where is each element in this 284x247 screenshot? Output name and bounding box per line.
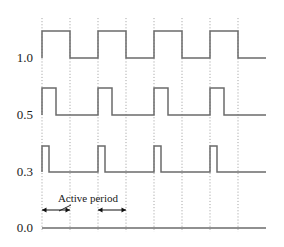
y-axis-label-2: 0.3: [17, 164, 33, 179]
waveform-1-0: [42, 31, 266, 58]
waveform-0-5: [42, 88, 266, 115]
active-period-arrowhead-left-1: [42, 207, 47, 212]
axis-labels-group: 1.00.50.30.0: [17, 50, 33, 235]
active-period-annotation: Active period: [42, 192, 126, 213]
y-axis-label-3: 0.0: [17, 220, 33, 235]
waveform-0-3: [42, 146, 266, 172]
active-period-label: Active period: [58, 192, 119, 204]
active-period-arrows: [42, 207, 126, 212]
active-period-arrowhead-right-2: [122, 207, 127, 212]
timing-diagram-canvas: 1.00.50.30.0 Active period: [0, 0, 284, 247]
active-period-arrowhead-right-1: [66, 207, 71, 212]
y-axis-label-1: 0.5: [17, 107, 33, 122]
timing-diagram-figure: 1.00.50.30.0 Active period: [0, 0, 284, 247]
y-axis-label-0: 1.0: [17, 50, 33, 65]
active-period-arrowhead-left-2: [98, 207, 103, 212]
